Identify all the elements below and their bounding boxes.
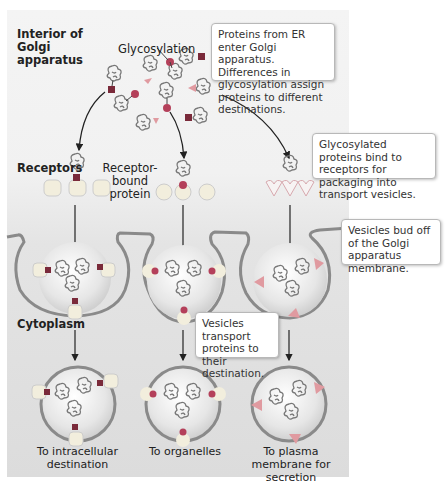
callout-er-entry: Proteins from ER enter Golgi apparatus. … (211, 23, 335, 81)
interior-label: Interior of Golgi apparatus (17, 28, 117, 67)
destination-intracellular: To intracellular destination (30, 445, 125, 471)
destination-organelles: To organelles (140, 445, 230, 458)
callout-vesicle-budding: Vesicles bud off of the Golgi apparatus … (341, 219, 441, 265)
receptors-label: Receptors (17, 162, 82, 175)
callout-receptor-binding: Glycosylated proteins bind to receptors … (312, 133, 436, 179)
floating-proteins (107, 48, 210, 130)
callout-vesicle-transport: Vesicles transport proteins to their des… (195, 312, 279, 358)
cytoplasm-label: Cytoplasm (17, 318, 85, 331)
transport-vesicles (32, 367, 326, 447)
receptor-bound-label: Receptor-bound protein (90, 162, 170, 201)
destination-plasma-membrane: To plasma membrane for secretion (236, 445, 346, 484)
budding-vesicles (33, 242, 327, 325)
receptors-heart (266, 155, 314, 196)
glycosylation-label: Glycosylation (118, 43, 195, 56)
